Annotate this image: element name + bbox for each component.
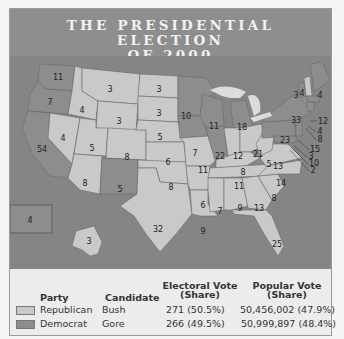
ev-label-tx: 32 bbox=[153, 225, 163, 234]
ev-label-ia: 7 bbox=[192, 149, 197, 158]
leader-line-ri bbox=[308, 126, 316, 132]
ev-label-in: 12 bbox=[233, 152, 243, 161]
ev-label-az: 8 bbox=[82, 179, 87, 188]
ev-label-ar: 6 bbox=[200, 201, 205, 210]
ev-label-hi: 4 bbox=[27, 216, 32, 225]
republican-swatch bbox=[16, 306, 35, 315]
democrat-swatch bbox=[16, 320, 35, 329]
ev-label-ak: 3 bbox=[86, 237, 91, 246]
state-me bbox=[310, 62, 330, 92]
us-map: 11 7 54 4 4 3 3 5 8 8 5 3 3 5 6 8 32 10 … bbox=[10, 56, 331, 269]
leader-line-ct bbox=[306, 128, 316, 140]
row-republican-candidate: Bush bbox=[102, 304, 126, 315]
ev-label-il: 22 bbox=[215, 152, 225, 161]
ev-label-mo: 11 bbox=[198, 166, 208, 175]
ev-label-mn: 10 bbox=[181, 112, 191, 121]
ev-label-al: 9 bbox=[237, 204, 242, 213]
ev-label-ny: 33 bbox=[291, 116, 301, 125]
ev-label-va: 13 bbox=[273, 162, 283, 171]
ev-label-ne: 5 bbox=[157, 133, 162, 142]
leader-line-nj bbox=[298, 140, 309, 150]
ev-label-id: 4 bbox=[79, 106, 84, 115]
ev-label-ma: 12 bbox=[318, 117, 328, 126]
header-electoral-vote: Electoral Vote (Share) bbox=[160, 281, 240, 299]
ev-label-nd: 3 bbox=[156, 85, 161, 94]
header-popular-vote: Popular Vote (Share) bbox=[242, 281, 332, 299]
ev-label-nh: 4 bbox=[299, 89, 304, 98]
results-legend: Party Candidate Electoral Vote (Share) P… bbox=[10, 269, 331, 335]
title-line-1: THE PRESIDENTIAL ELECTION bbox=[10, 18, 331, 48]
ev-label-oh: 21 bbox=[253, 150, 263, 159]
row-democrat-popular: 50,999,897 (48.4%) bbox=[241, 318, 336, 329]
ev-label-wi: 11 bbox=[209, 122, 219, 131]
ev-label-pa: 23 bbox=[280, 136, 290, 145]
election-map-figure: THE PRESIDENTIAL ELECTION OF 2000 bbox=[9, 8, 332, 336]
ev-label-ms: 7 bbox=[217, 207, 222, 216]
ev-label-fl: 25 bbox=[272, 240, 282, 249]
ev-label-ca: 54 bbox=[37, 145, 47, 154]
ev-label-mi: 18 bbox=[237, 123, 247, 132]
header-popular-line2: (Share) bbox=[242, 290, 332, 299]
ev-label-wv: 5 bbox=[266, 160, 271, 169]
ev-label-ok: 8 bbox=[168, 183, 173, 192]
title-banner: THE PRESIDENTIAL ELECTION OF 2000 bbox=[10, 9, 331, 56]
row-democrat-party: Democrat bbox=[40, 318, 87, 329]
ev-label-ct: 8 bbox=[317, 135, 322, 144]
ev-label-sd: 3 bbox=[156, 109, 161, 118]
ev-label-ut: 5 bbox=[89, 144, 94, 153]
ev-label-ga: 13 bbox=[254, 204, 264, 213]
state-fl bbox=[232, 210, 284, 256]
ev-label-wa: 11 bbox=[53, 73, 63, 82]
ev-label-sc: 8 bbox=[271, 194, 276, 203]
ev-label-nv: 4 bbox=[60, 134, 65, 143]
header-party: Party bbox=[40, 293, 69, 302]
ev-label-or: 7 bbox=[47, 98, 52, 107]
ev-label-la: 9 bbox=[200, 227, 205, 236]
ev-label-wy: 3 bbox=[116, 117, 121, 126]
row-republican-party: Republican bbox=[40, 304, 92, 315]
row-democrat-electoral: 266 (49.5%) bbox=[166, 318, 225, 329]
ev-label-ky: 8 bbox=[240, 168, 245, 177]
ev-label-vt: 3 bbox=[293, 91, 298, 100]
header-candidate: Candidate bbox=[105, 293, 159, 302]
ev-label-tn: 11 bbox=[234, 182, 244, 191]
header-electoral-line2: (Share) bbox=[160, 290, 240, 299]
ev-label-co: 8 bbox=[124, 153, 129, 162]
state-az bbox=[68, 154, 102, 194]
ev-label-nm: 5 bbox=[117, 185, 122, 194]
ev-label-mt: 3 bbox=[107, 85, 112, 94]
state-wy bbox=[96, 101, 138, 131]
ev-label-me: 4 bbox=[317, 91, 322, 100]
ev-label-ks: 6 bbox=[165, 158, 170, 167]
row-republican-electoral: 271 (50.5%) bbox=[166, 304, 225, 315]
state-ny bbox=[264, 94, 310, 122]
ev-label-dc: 2 bbox=[310, 166, 315, 175]
row-republican-popular: 50,456,002 (47.9%) bbox=[240, 304, 335, 315]
ev-label-nc: 14 bbox=[276, 179, 286, 188]
row-democrat-candidate: Gore bbox=[102, 318, 125, 329]
